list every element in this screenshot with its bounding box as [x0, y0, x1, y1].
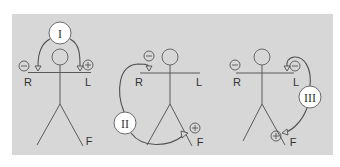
- lead-diagram: I R L F II: [0, 0, 340, 167]
- lead-label: II: [121, 117, 129, 131]
- label-f: F: [197, 136, 204, 148]
- lead-label: III: [304, 91, 316, 105]
- lead-label: I: [58, 27, 62, 41]
- label-r: R: [233, 76, 241, 88]
- label-r: R: [135, 76, 143, 88]
- label-l: L: [196, 76, 202, 88]
- label-f: F: [86, 135, 93, 147]
- label-f: F: [290, 136, 297, 148]
- label-r: R: [24, 76, 32, 88]
- label-l: L: [293, 76, 299, 88]
- label-l: L: [85, 76, 91, 88]
